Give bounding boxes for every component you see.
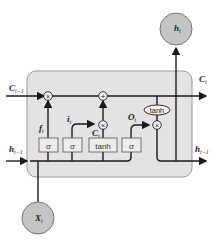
svg-text:×: × (155, 122, 159, 129)
candidate-tanh: tanh (89, 138, 117, 152)
h-prev-label: ht−1 (9, 144, 23, 155)
output-tanh-ellipse: tanh (144, 105, 170, 115)
forget-multiply-icon: × (44, 92, 53, 101)
lstm-diagram: σ σ tanh σ × + × × tanh ht Xt Ct− (0, 0, 218, 243)
svg-text:tanh: tanh (95, 142, 111, 151)
hidden-output-node: ht (160, 13, 192, 45)
input-node: Xt (22, 202, 54, 234)
svg-text:×: × (46, 93, 50, 100)
forget-gate-sigma: σ (39, 138, 58, 152)
svg-text:×: × (101, 122, 105, 129)
output-multiply-icon: × (153, 121, 162, 130)
input-gate-sigma: σ (63, 138, 82, 152)
c-prev-label: Ct−1 (9, 83, 24, 94)
output-gate-sigma: σ (122, 138, 141, 152)
svg-text:+: + (101, 92, 106, 101)
input-multiply-icon: × (99, 121, 108, 130)
svg-text:tanh: tanh (150, 106, 165, 115)
add-icon: + (99, 92, 108, 101)
c-out-label: Ct (199, 74, 207, 85)
h-out-right-label: ht−1 (195, 144, 209, 155)
